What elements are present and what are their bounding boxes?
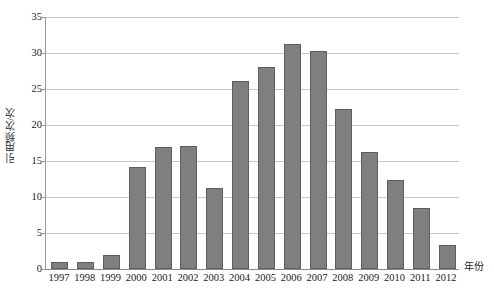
bar-series xyxy=(46,17,459,269)
bar xyxy=(284,44,301,269)
bar xyxy=(439,245,456,269)
bar xyxy=(413,208,430,269)
y-axis-tick-label: 10 xyxy=(18,192,42,203)
y-axis-tick-label: 25 xyxy=(18,84,42,95)
bar xyxy=(335,109,352,269)
y-axis-tick-label: 20 xyxy=(18,120,42,131)
y-axis-title-label: 引用频次/次 xyxy=(3,107,18,163)
bar xyxy=(180,146,197,269)
bar xyxy=(129,167,146,269)
bar xyxy=(258,67,275,269)
x-axis-title: 年份 xyxy=(464,258,484,273)
bar xyxy=(77,262,94,269)
bar xyxy=(155,147,172,269)
bar xyxy=(310,51,327,269)
bar xyxy=(103,255,120,269)
y-axis-tick-label: 35 xyxy=(18,12,42,23)
y-axis-title: 引用频次/次 xyxy=(2,0,18,270)
bar xyxy=(206,188,223,269)
plot-area xyxy=(45,17,459,270)
bar xyxy=(361,152,378,269)
bar xyxy=(387,180,404,269)
x-axis-tick-label: 2012 xyxy=(426,272,466,285)
y-axis-tick-labels: 05101520253035 xyxy=(18,0,42,303)
bar-chart: 引用频次/次 05101520253035 199719981999200020… xyxy=(0,0,494,303)
y-axis-tick-label: 5 xyxy=(18,228,42,239)
y-axis-tick-label: 30 xyxy=(18,48,42,59)
bar xyxy=(232,81,249,269)
x-axis-tick-labels: 1997199819992000200120022003200420052006… xyxy=(45,272,458,290)
y-axis-tick-mark xyxy=(42,269,46,270)
bar xyxy=(51,262,68,269)
y-axis-tick-label: 15 xyxy=(18,156,42,167)
